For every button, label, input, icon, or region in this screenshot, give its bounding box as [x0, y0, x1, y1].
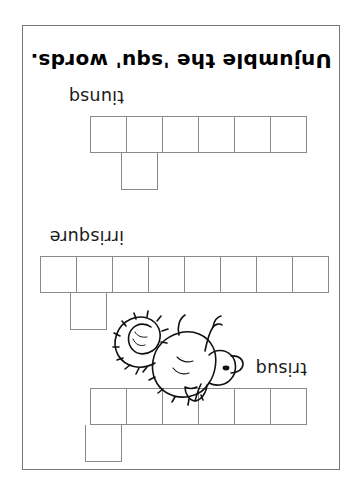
- answer-cell-riser[interactable]: [85, 425, 122, 462]
- answer-cell[interactable]: [270, 388, 307, 425]
- answer-row: [40, 256, 329, 293]
- answer-cell[interactable]: [198, 116, 235, 153]
- worksheet-page: trisuq irrisqure tiunsq: [22, 25, 340, 470]
- clue-word: trisuq: [256, 359, 307, 379]
- answer-cell[interactable]: [76, 256, 113, 293]
- answer-cell[interactable]: [256, 256, 293, 293]
- clue-word: tiunsq: [69, 87, 124, 107]
- answer-cell[interactable]: [184, 256, 221, 293]
- answer-cell[interactable]: [40, 256, 77, 293]
- answer-cell[interactable]: [270, 116, 307, 153]
- answer-cell[interactable]: [90, 116, 127, 153]
- answer-cell[interactable]: [112, 256, 149, 293]
- answer-cell[interactable]: [220, 256, 257, 293]
- answer-cell[interactable]: [162, 116, 199, 153]
- answer-cell[interactable]: [126, 116, 163, 153]
- puzzle-squint: tiunsq: [21, 87, 339, 205]
- page-title: Unjumble the 'squ' words.: [23, 49, 339, 73]
- answer-cell-riser[interactable]: [121, 153, 158, 190]
- answer-row: [90, 116, 307, 153]
- answer-cell[interactable]: [234, 116, 271, 153]
- answer-cell[interactable]: [292, 256, 329, 293]
- squirrel-illustration: [111, 305, 251, 413]
- clue-word: irrisqure: [49, 227, 124, 247]
- answer-cell-riser[interactable]: [70, 293, 107, 330]
- answer-cell[interactable]: [148, 256, 185, 293]
